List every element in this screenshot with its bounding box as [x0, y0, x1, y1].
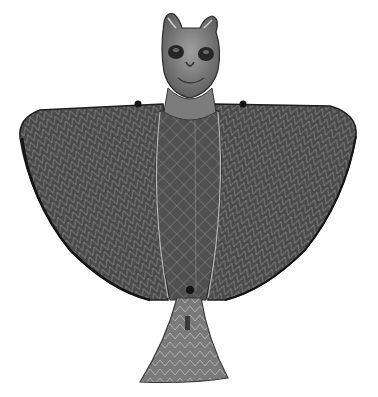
rivet-hole — [240, 101, 247, 108]
artifact-figure — [0, 0, 378, 397]
artifact-photo: Grayscale photograph of a cast metal fig… — [0, 0, 378, 397]
rivet-hole — [186, 286, 194, 294]
head — [162, 14, 220, 98]
tail — [140, 298, 228, 383]
body — [156, 110, 221, 300]
rivet-hole — [135, 101, 142, 108]
